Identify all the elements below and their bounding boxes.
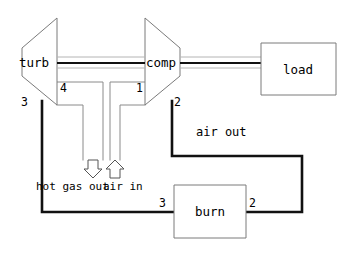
burner-label: burn <box>195 204 225 219</box>
air-out-caption: air out <box>196 125 247 139</box>
duct-station-4-bottom <box>57 105 83 160</box>
up-arrow-icon <box>106 160 124 178</box>
hot-gas-out-caption: hot gas out <box>36 180 109 193</box>
load-label: load <box>283 62 313 77</box>
gas-turbine-diagram: turb comp load burn 4 1 3 2 3 2 hot gas … <box>0 0 360 257</box>
station-label-2-compressor: 2 <box>174 95 181 109</box>
down-arrow-icon <box>84 160 102 178</box>
pipe-station-3-turbine-to-burner <box>42 101 174 212</box>
duct-group <box>57 82 145 160</box>
station-label-1: 1 <box>136 81 143 95</box>
station-label-2-burner: 2 <box>249 196 256 210</box>
pipe-group <box>42 101 302 212</box>
duct-station-1-bottom <box>120 105 145 160</box>
schematic-canvas: turb comp load burn 4 1 3 2 3 2 hot gas … <box>0 0 360 257</box>
station-label-3-burner: 3 <box>159 196 166 210</box>
turbine-label: turb <box>19 55 49 70</box>
station-label-4: 4 <box>60 81 67 95</box>
station-label-3-turbine: 3 <box>21 95 28 109</box>
air-in-caption: air in <box>103 180 143 193</box>
compressor-label: comp <box>146 55 176 70</box>
